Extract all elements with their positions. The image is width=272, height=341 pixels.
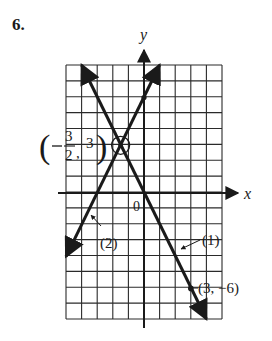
y-axis-label: y [138, 26, 148, 44]
line-2-label: (2) [100, 235, 118, 252]
line-2-pointer [91, 215, 101, 226]
coordinate-graph: x y 0 ( 3 2 , 3 ) (1) (2) (3, −6) [0, 0, 272, 341]
svg-text:3: 3 [65, 128, 73, 144]
svg-text:): ) [96, 128, 107, 166]
origin-label: 0 [133, 199, 140, 214]
svg-text:3: 3 [86, 135, 94, 151]
x-axis-label: x [243, 185, 251, 202]
intersection-dot [118, 143, 122, 147]
line-1-label: (1) [202, 232, 220, 249]
svg-text:2: 2 [65, 147, 73, 163]
point-3-neg6-label: (3, −6) [198, 280, 239, 297]
svg-text:,: , [76, 145, 80, 161]
y-intercept-dot [141, 95, 146, 100]
svg-text:(: ( [39, 128, 50, 166]
